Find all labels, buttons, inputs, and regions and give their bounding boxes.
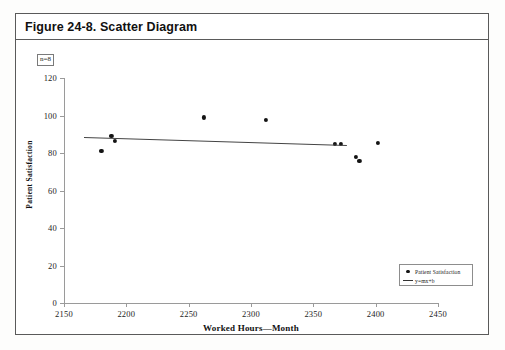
x-tick	[126, 303, 127, 307]
y-tick	[60, 266, 64, 267]
x-tick-label: 2250	[180, 309, 198, 319]
data-point	[264, 118, 268, 122]
x-tick	[313, 303, 314, 307]
y-tick	[60, 116, 64, 117]
data-point	[357, 158, 361, 162]
y-tick	[60, 78, 64, 79]
legend-label: y=mx+b	[413, 278, 435, 284]
x-tick	[189, 303, 190, 307]
y-tick-label: 120	[44, 73, 57, 83]
x-tick-label: 2350	[304, 309, 322, 319]
y-tick-label: 80	[48, 148, 57, 158]
sample-size-badge: n=8	[37, 54, 54, 66]
figure-page: Figure 24-8. Scatter Diagram n=8 Patient…	[0, 0, 505, 350]
y-tick-label: 60	[48, 186, 57, 196]
legend-item-trendline: y=mx+b	[403, 276, 469, 285]
y-tick-label: 0	[53, 298, 57, 308]
trendline	[84, 137, 347, 146]
x-tick	[64, 303, 65, 307]
y-axis-title: Patient Satisfaction	[25, 100, 34, 250]
legend: Patient Satisfaction y=mx+b	[399, 264, 473, 286]
y-tick-label: 20	[48, 261, 57, 271]
figure-frame: Figure 24-8. Scatter Diagram n=8 Patient…	[15, 13, 489, 335]
legend-dot-icon	[403, 270, 413, 273]
x-tick	[251, 303, 252, 307]
x-tick	[376, 303, 377, 307]
figure-title-bar: Figure 24-8. Scatter Diagram	[16, 14, 488, 40]
x-tick	[438, 303, 439, 307]
x-tick-label: 2400	[367, 309, 385, 319]
x-tick-label: 2200	[117, 309, 135, 319]
y-tick	[60, 228, 64, 229]
data-point	[202, 115, 206, 119]
legend-item-patient-satisfaction: Patient Satisfaction	[403, 267, 469, 276]
y-axis-line	[64, 78, 65, 304]
data-point	[113, 139, 117, 143]
data-point	[99, 149, 103, 153]
x-tick-label: 2150	[55, 309, 73, 319]
figure-title: Figure 24-8. Scatter Diagram	[16, 20, 197, 34]
y-tick-label: 100	[44, 111, 57, 121]
x-tick-label: 2300	[242, 309, 260, 319]
plot-area: n=8 Patient Satisfaction Worked Hours—Mo…	[16, 40, 488, 334]
legend-line-icon	[403, 280, 413, 281]
legend-label: Patient Satisfaction	[413, 269, 460, 275]
y-tick-label: 40	[48, 223, 57, 233]
data-point	[376, 141, 380, 145]
y-tick	[60, 153, 64, 154]
x-axis-title: Worked Hours—Month	[64, 323, 438, 333]
y-tick	[60, 191, 64, 192]
x-tick-label: 2450	[429, 309, 447, 319]
